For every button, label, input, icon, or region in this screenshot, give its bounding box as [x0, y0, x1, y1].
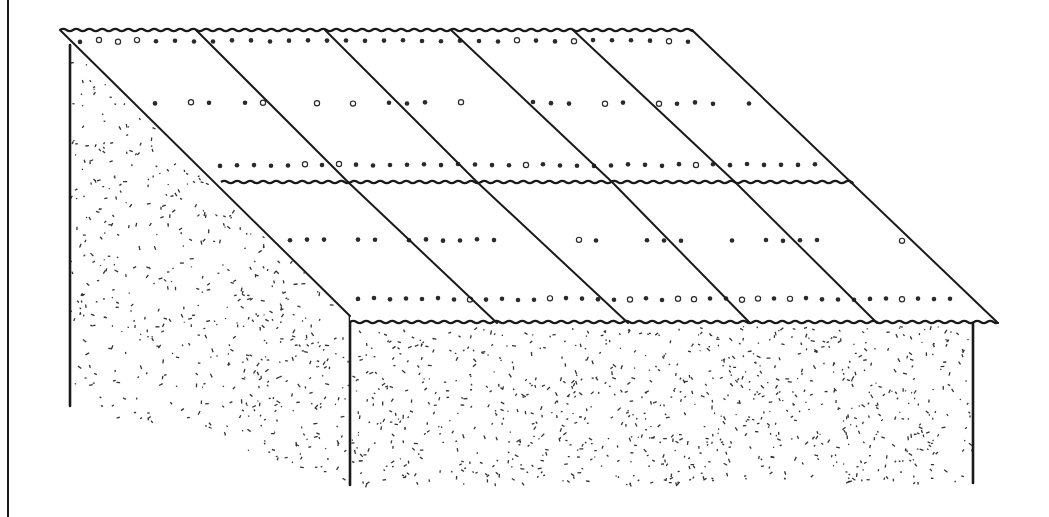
stipple-dot [500, 409, 504, 411]
stipple-dot [311, 342, 314, 344]
stipple-dot [816, 431, 818, 434]
stipple-dot [280, 303, 283, 307]
stipple-dot [246, 357, 249, 360]
stipple-dot [854, 372, 856, 376]
stipple-dot [219, 240, 221, 244]
stipple-dot [324, 471, 327, 472]
nail [549, 101, 554, 106]
stipple-dot [75, 188, 78, 190]
stipple-dot [784, 471, 786, 475]
stipple-dot [863, 441, 865, 443]
nail [420, 297, 425, 302]
stipple-dot [483, 435, 486, 439]
stipple-dot [428, 402, 430, 405]
nail [711, 102, 716, 107]
stipple-dot [119, 184, 122, 186]
stipple-dot [716, 338, 720, 340]
stipple-dot [285, 457, 288, 459]
stipple-dot [374, 442, 376, 443]
stipple-dot [76, 198, 78, 200]
stipple-dot [133, 266, 137, 269]
stipple-dot [191, 266, 192, 267]
stipple-dot [281, 314, 284, 318]
stipple-dot [382, 378, 384, 380]
stipple-dot [325, 345, 329, 347]
stipple-dot [721, 360, 723, 362]
stipple-dot [213, 240, 215, 242]
stipple-dot [833, 465, 834, 466]
stipple-dot [804, 327, 808, 329]
stipple-dot [247, 429, 251, 432]
stipple-dot [421, 357, 423, 360]
stipple-dot [205, 215, 207, 218]
stipple-dot [469, 374, 471, 376]
stipple-dot [769, 471, 773, 474]
stipple-dot [255, 313, 257, 315]
stipple-dot [356, 447, 358, 449]
stipple-dot [242, 361, 244, 363]
stipple-dot [174, 193, 177, 197]
stipple-dot [316, 366, 318, 368]
stipple-dot [393, 365, 395, 367]
stipple-dot [684, 412, 687, 415]
nail [745, 162, 750, 167]
stipple-dot [432, 349, 435, 353]
stipple-dot [921, 342, 922, 343]
nail [645, 238, 650, 243]
stipple-dot [775, 332, 777, 336]
stipple-dot [619, 333, 621, 335]
stipple-dot [389, 410, 392, 413]
stipple-dot [869, 445, 871, 448]
stipple-dot [83, 196, 85, 198]
stipple-dot [123, 397, 127, 400]
stipple-dot [457, 412, 459, 414]
stipple-dot [956, 332, 959, 335]
stipple-dot [318, 292, 320, 296]
stipple-dot [318, 342, 319, 344]
stipple-dot [144, 317, 146, 320]
stipple-dot [304, 351, 308, 353]
stipple-dot [604, 382, 606, 384]
stipple-dot [858, 355, 862, 358]
stipple-dot [301, 426, 303, 428]
stipple-dot [614, 394, 616, 396]
stipple-dot [408, 461, 409, 464]
stipple-dot [776, 435, 777, 437]
stipple-dot [93, 86, 96, 88]
stipple-dot [158, 277, 162, 280]
stipple-dot [842, 427, 846, 430]
stipple-dot [851, 376, 854, 380]
stipple-dot [589, 438, 593, 441]
stipple-dot [290, 261, 293, 264]
stipple-dot [248, 449, 249, 451]
stipple-dot [688, 466, 690, 470]
stipple-dot [711, 405, 712, 409]
stipple-dot [900, 471, 902, 472]
stipple-dot [531, 385, 533, 387]
stipple-dot [524, 332, 528, 335]
stipple-dot [272, 397, 274, 399]
stipple-dot [90, 325, 93, 327]
stipple-dot [691, 391, 693, 395]
stipple-dot [621, 422, 624, 426]
stipple-dot [305, 339, 306, 341]
stipple-dot [233, 336, 237, 339]
stipple-dot [198, 411, 201, 415]
stipple-dot [281, 406, 283, 408]
stipple-dot [309, 377, 311, 379]
stipple-dot [205, 403, 209, 405]
stipple-dot [203, 210, 205, 212]
stipple-dot [863, 359, 867, 361]
nail [531, 100, 536, 105]
stipple-dot [908, 402, 910, 404]
stipple-dot [664, 459, 666, 462]
nail [708, 296, 713, 301]
stipple-dot [704, 466, 706, 468]
stipple-dot [139, 118, 141, 121]
stipple-dot [455, 440, 457, 442]
stipple-dot [324, 366, 327, 369]
stipple-dot [389, 386, 393, 389]
stipple-dot [166, 169, 169, 172]
stipple-dot [590, 458, 593, 461]
stipple-dot [190, 258, 194, 260]
